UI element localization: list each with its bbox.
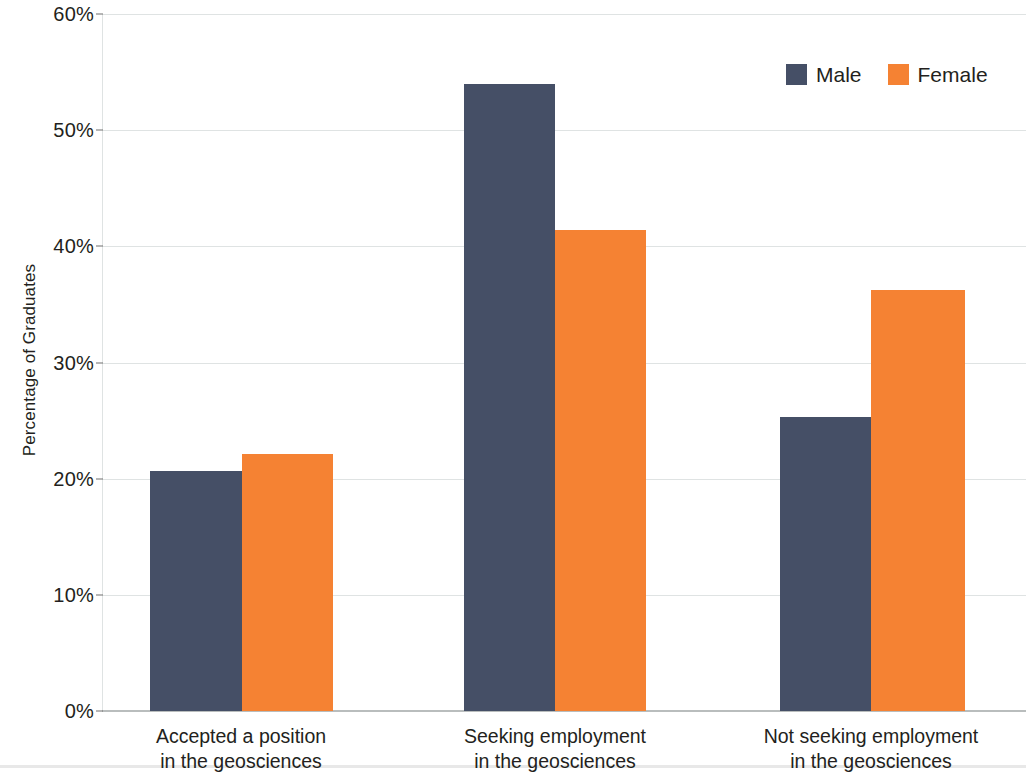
bar-male-group-1: [150, 471, 242, 711]
y-tick-mark: [96, 594, 103, 595]
y-tick-mark: [96, 130, 103, 131]
bar-female-group-1: [242, 454, 333, 711]
legend-label-female: Female: [918, 64, 988, 85]
bar-female-group-2: [555, 230, 646, 711]
y-tick-label: 30%: [32, 351, 94, 374]
legend-swatch-male-icon: [786, 64, 807, 85]
legend-item-female[interactable]: Female: [888, 64, 988, 85]
x-category-label-3: Not seeking employmentin the geosciences: [671, 724, 1026, 774]
gridline: [102, 14, 1026, 15]
gridline: [102, 130, 1026, 131]
y-tick-label: 0%: [32, 700, 94, 723]
x-category-label-line: Not seeking employment: [671, 724, 1026, 749]
x-category-label-line: in the geosciences: [671, 749, 1026, 774]
y-tick-label: 20%: [32, 467, 94, 490]
bar-male-group-2: [464, 84, 555, 711]
y-tick-mark: [96, 14, 103, 15]
legend-label-male: Male: [816, 64, 862, 85]
legend-item-male[interactable]: Male: [786, 64, 862, 85]
bar-female-group-3: [871, 290, 965, 711]
bar-male-group-3: [780, 417, 871, 711]
y-tick-label: 50%: [32, 119, 94, 142]
legend-swatch-female-icon: [888, 64, 909, 85]
y-tick-label: 40%: [32, 235, 94, 258]
plot-area: [102, 0, 1026, 768]
y-tick-mark: [96, 362, 103, 363]
y-tick-mark: [96, 711, 103, 712]
y-tick-label: 60%: [32, 3, 94, 26]
y-tick-label: 10%: [32, 583, 94, 606]
legend: Male Female: [786, 64, 988, 85]
y-tick-mark: [96, 246, 103, 247]
y-tick-mark: [96, 478, 103, 479]
y-axis-ticks: 0%10%20%30%40%50%60%: [0, 0, 94, 768]
